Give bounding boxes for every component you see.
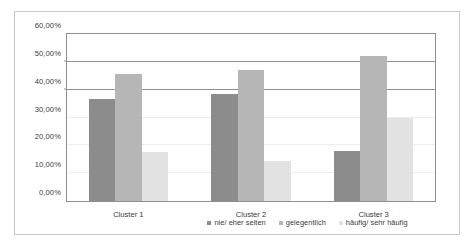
legend-label: häufig/ sehr häufig <box>346 218 408 227</box>
legend-item: häufig/ sehr häufig <box>339 218 408 227</box>
bars-layer <box>67 34 435 201</box>
y-axis-tick-label: 60,00% <box>35 21 67 30</box>
bar <box>264 161 291 201</box>
legend-swatch-icon <box>279 221 283 225</box>
bar-group <box>89 34 169 201</box>
plot-area: 0,00%10,00%20,00%30,00%40,00%50,00%60,00… <box>66 33 436 202</box>
legend-swatch-icon <box>339 221 343 225</box>
bar-group <box>211 34 291 201</box>
bar <box>360 56 387 201</box>
bar <box>238 70 265 201</box>
legend-swatch-icon <box>207 221 211 225</box>
bar <box>334 151 361 201</box>
y-axis-tick-label: 50,00% <box>35 48 67 57</box>
bar <box>387 118 414 201</box>
chart-figure: 0,00%10,00%20,00%30,00%40,00%50,00%60,00… <box>14 11 460 235</box>
bar-group <box>334 34 414 201</box>
y-axis-tick-label: 20,00% <box>35 132 67 141</box>
legend-item: nie/ eher selten <box>207 218 265 227</box>
bar <box>89 99 116 201</box>
bar <box>142 152 169 201</box>
chart-legend: nie/ eher seltengelegentlichhäufig/ sehr… <box>15 218 450 227</box>
y-axis-tick-label: 40,00% <box>35 76 67 85</box>
y-axis-tick-label: 30,00% <box>35 104 67 113</box>
bar <box>211 94 238 201</box>
legend-label: nie/ eher selten <box>214 218 265 227</box>
legend-item: gelegentlich <box>279 218 326 227</box>
y-axis-tick-label: 10,00% <box>35 160 67 169</box>
bar <box>115 74 142 201</box>
legend-label: gelegentlich <box>286 218 326 227</box>
y-axis-tick-label: 0,00% <box>39 188 67 197</box>
